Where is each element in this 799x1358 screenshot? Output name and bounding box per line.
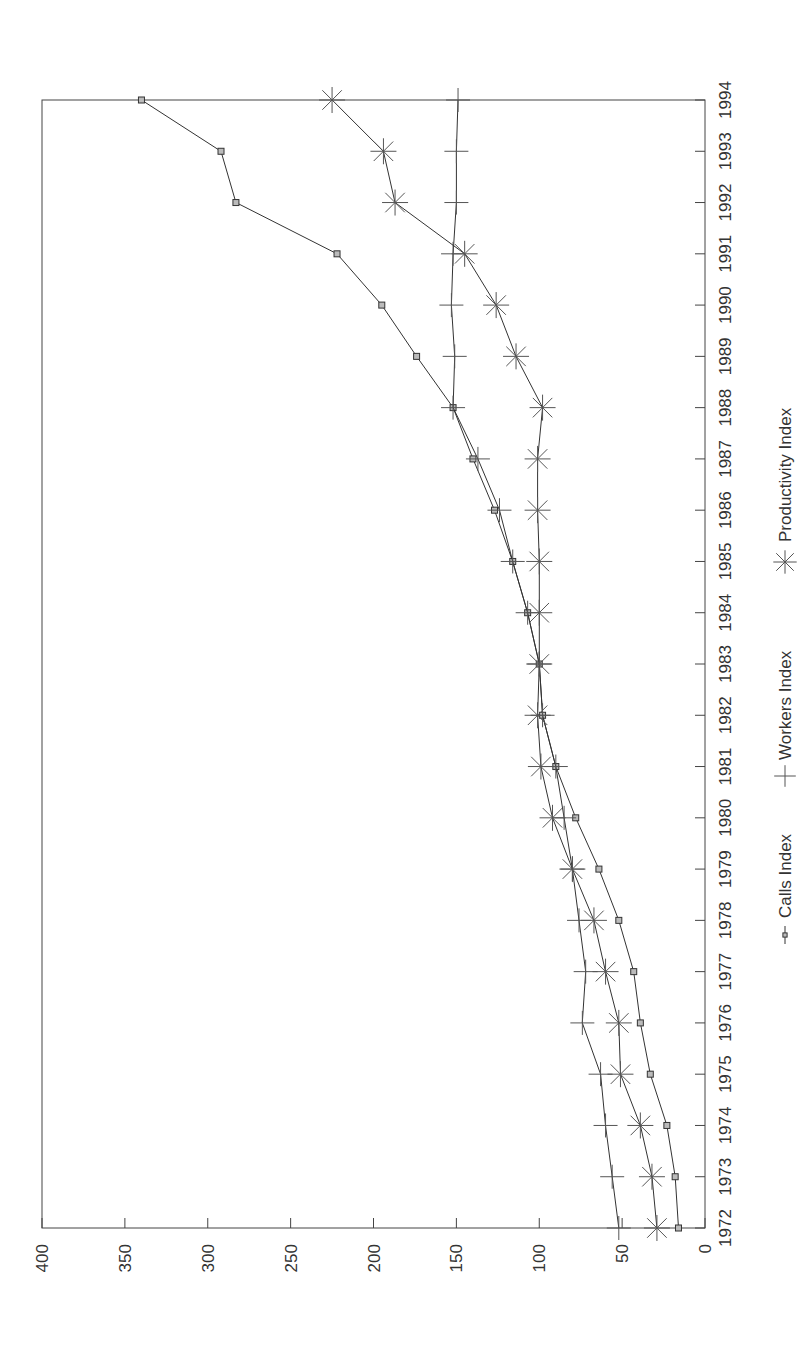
asterisk-marker-icon [526,600,552,626]
asterisk-marker-icon [382,190,408,216]
square-marker-icon [138,97,144,103]
year-tick-label: 1990 [716,286,735,324]
square-marker-icon [233,200,239,206]
year-tick-label: 1991 [716,235,735,273]
value-axis: 050100150200250300350400 [33,1218,715,1272]
asterisk-marker-icon [644,1215,670,1241]
square-marker-icon [218,148,224,154]
asterisk-marker-icon [525,497,551,523]
year-tick-label: 1972 [716,1209,735,1247]
asterisk-marker-icon [452,241,478,267]
asterisk-marker-icon [559,856,585,882]
asterisk-marker-icon [526,651,552,677]
year-tick-label: 1984 [716,594,735,632]
value-tick-label: 150 [447,1244,466,1272]
plus-marker-icon [446,88,470,112]
year-tick-label: 1973 [716,1158,735,1196]
value-tick-label: 200 [365,1244,384,1272]
asterisk-marker-icon [773,550,796,573]
year-tick-label: 1993 [716,132,735,170]
legend-item: Calls Index [776,833,795,944]
asterisk-marker-icon [525,702,551,728]
plus-marker-icon [444,139,468,163]
value-tick-label: 250 [282,1244,301,1272]
year-tick-label: 1981 [716,748,735,786]
legend-label: Workers Index [776,650,795,760]
series-group [138,87,681,1241]
square-marker-icon [596,866,602,872]
year-tick-label: 1986 [716,491,735,529]
square-marker-icon [379,302,385,308]
plus-marker-icon [444,191,468,215]
square-marker-icon [664,1122,670,1128]
plot-frame [42,100,705,1228]
series-calls-index [138,97,681,1231]
year-tick-label: 1979 [716,850,735,888]
plot-border [42,100,705,1228]
value-tick-label: 0 [696,1244,715,1253]
asterisk-marker-icon [525,446,551,472]
asterisk-marker-icon [370,138,396,164]
legend: Calls IndexWorkers IndexProductivity Ind… [773,407,796,944]
year-tick-label: 1989 [716,337,735,375]
legend-label: Calls Index [776,833,795,918]
year-tick-label: 1978 [716,901,735,939]
asterisk-marker-icon [627,1112,653,1138]
year-tick-label: 1985 [716,543,735,581]
square-marker-icon [637,1020,643,1026]
value-tick-label: 100 [530,1244,549,1272]
year-tick-label: 1975 [716,1055,735,1093]
plus-marker-icon [594,1113,618,1137]
asterisk-marker-icon [530,395,556,421]
year-tick-label: 1977 [716,953,735,991]
asterisk-marker-icon [483,292,509,318]
square-marker-icon [631,969,637,975]
asterisk-marker-icon [593,959,619,985]
square-marker-icon [672,1174,678,1180]
value-tick-label: 50 [613,1244,632,1263]
year-tick-label: 1980 [716,799,735,837]
series-line [332,100,657,1228]
plus-marker-icon [443,344,467,368]
value-tick-label: 400 [33,1244,52,1272]
square-marker-icon [783,933,787,937]
year-tick-label: 1974 [716,1107,735,1145]
asterisk-marker-icon [528,754,554,780]
asterisk-marker-icon [606,1010,632,1036]
square-marker-icon [675,1225,681,1231]
legend-label: Productivity Index [776,407,795,542]
legend-item: Workers Index [774,650,796,787]
plus-marker-icon [570,1011,594,1035]
year-tick-label: 1994 [716,81,735,119]
plus-marker-icon [607,1216,631,1240]
year-tick-label: 1988 [716,389,735,427]
year-tick-label: 1976 [716,1004,735,1042]
square-marker-icon [647,1071,653,1077]
series-line [142,100,679,1228]
plus-marker-icon [439,293,463,317]
plus-marker-icon [774,765,796,787]
asterisk-marker-icon [581,907,607,933]
asterisk-marker-icon [503,343,529,369]
line-chart: 050100150200250300350400 197219731974197… [0,0,799,1358]
legend-item: Productivity Index [773,407,796,573]
plus-marker-icon [441,396,465,420]
square-marker-icon [414,353,420,359]
year-tick-label: 1987 [716,440,735,478]
asterisk-marker-icon [540,805,566,831]
square-marker-icon [616,917,622,923]
square-marker-icon [334,251,340,257]
value-tick-label: 350 [116,1244,135,1272]
year-tick-label: 1992 [716,184,735,222]
year-tick-label: 1983 [716,645,735,683]
plus-marker-icon [501,549,525,573]
asterisk-marker-icon [319,87,345,113]
value-tick-label: 300 [199,1244,218,1272]
asterisk-marker-icon [639,1164,665,1190]
plus-marker-icon [600,1165,624,1189]
year-axis: 1972197319741975197619771978197919801981… [695,81,735,1247]
asterisk-marker-icon [607,1061,633,1087]
year-tick-label: 1982 [716,696,735,734]
asterisk-marker-icon [526,548,552,574]
series-productivity-index [319,87,670,1241]
